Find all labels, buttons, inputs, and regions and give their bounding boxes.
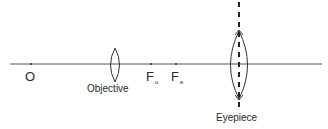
microscope-diagram: [0, 0, 328, 129]
label-o: O: [25, 70, 35, 83]
label-o-text: O: [25, 69, 35, 84]
point-fo-marker: [150, 63, 152, 65]
label-fe-main: F: [171, 69, 179, 84]
point-fe-marker: [175, 63, 177, 65]
label-fe: Fe: [171, 70, 183, 83]
label-fo: Fo: [146, 70, 158, 83]
objective-lens: [111, 48, 120, 82]
label-fo-main: F: [146, 69, 154, 84]
label-fe-subscript: e: [180, 79, 183, 85]
label-eyepiece: Eyepiece: [216, 113, 257, 123]
point-o-marker: [30, 63, 32, 65]
label-objective: Objective: [87, 84, 129, 94]
label-fo-subscript: o: [155, 79, 158, 85]
